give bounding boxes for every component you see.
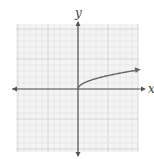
x-axis-label: x (148, 82, 154, 96)
x-axis-right-arrow-icon (141, 87, 146, 92)
y-axis-label: y (74, 6, 82, 20)
square-root-graph: x y (0, 0, 154, 159)
y-axis-down-arrow-icon (76, 152, 81, 157)
x-axis-left-arrow-icon (12, 87, 17, 92)
y-axis-up-arrow-icon (76, 21, 81, 26)
